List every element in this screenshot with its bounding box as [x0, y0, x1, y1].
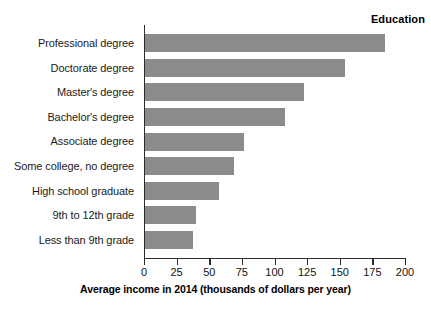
bar-row — [145, 203, 406, 228]
bar — [145, 182, 219, 200]
x-axis-tick-label: 150 — [331, 266, 349, 278]
y-axis-tick-label: Master's degree — [57, 80, 134, 105]
x-axis-tick — [177, 259, 178, 265]
x-axis-tick-label: 175 — [363, 266, 381, 278]
bar-row — [145, 129, 406, 154]
bar — [145, 59, 345, 77]
y-axis-tick-label: Associate degree — [51, 129, 134, 154]
x-axis-tick — [372, 259, 373, 265]
y-axis-tick-label: High school graduate — [32, 179, 134, 204]
x-axis-tick — [209, 259, 210, 265]
bar-row — [145, 56, 406, 81]
x-axis-tick-label: 100 — [265, 266, 283, 278]
y-axis-tick-label: Some college, no degree — [14, 154, 134, 179]
bar-row — [145, 179, 406, 204]
x-axis-tick-label: 0 — [141, 266, 147, 278]
bar — [145, 83, 304, 101]
bar — [145, 231, 193, 249]
bar — [145, 34, 385, 52]
x-axis-tick — [144, 259, 145, 265]
x-axis-tick-label: 50 — [203, 266, 215, 278]
y-axis-tick-label: Less than 9th grade — [39, 228, 134, 253]
x-axis-tick — [307, 259, 308, 265]
bar — [145, 133, 244, 151]
x-axis-tick — [275, 259, 276, 265]
x-axis-tick-labels: 0255075100125150175200 — [144, 266, 406, 282]
bar-row — [145, 154, 406, 179]
x-axis-title: Average income in 2014 (thousands of dol… — [0, 283, 431, 295]
x-axis-tick — [405, 259, 406, 265]
bar — [145, 108, 285, 126]
bar-row — [145, 105, 406, 130]
x-axis-tick-label: 75 — [236, 266, 248, 278]
x-axis-tick — [340, 259, 341, 265]
y-axis-tick-labels: Professional degreeDoctorate degreeMaste… — [0, 31, 140, 253]
bar-row — [145, 31, 406, 56]
x-axis-tick-label: 125 — [298, 266, 316, 278]
y-axis-tick-label: Bachelor's degree — [47, 105, 134, 130]
y-axis-tick-label: 9th to 12th grade — [53, 203, 134, 228]
bar — [145, 206, 196, 224]
bar — [145, 157, 234, 175]
plot-area — [144, 25, 406, 259]
y-axis-tick-label: Doctorate degree — [51, 56, 134, 81]
x-axis-tick-label: 25 — [171, 266, 183, 278]
bar-series — [145, 31, 406, 253]
x-axis-tick — [242, 259, 243, 265]
y-axis-title: Education — [371, 13, 425, 25]
bar-row — [145, 228, 406, 253]
x-axis-tick-label: 200 — [396, 266, 414, 278]
bar-chart: Education Professional degreeDoctorate d… — [0, 0, 431, 314]
y-axis-tick-label: Professional degree — [38, 31, 134, 56]
bar-row — [145, 80, 406, 105]
